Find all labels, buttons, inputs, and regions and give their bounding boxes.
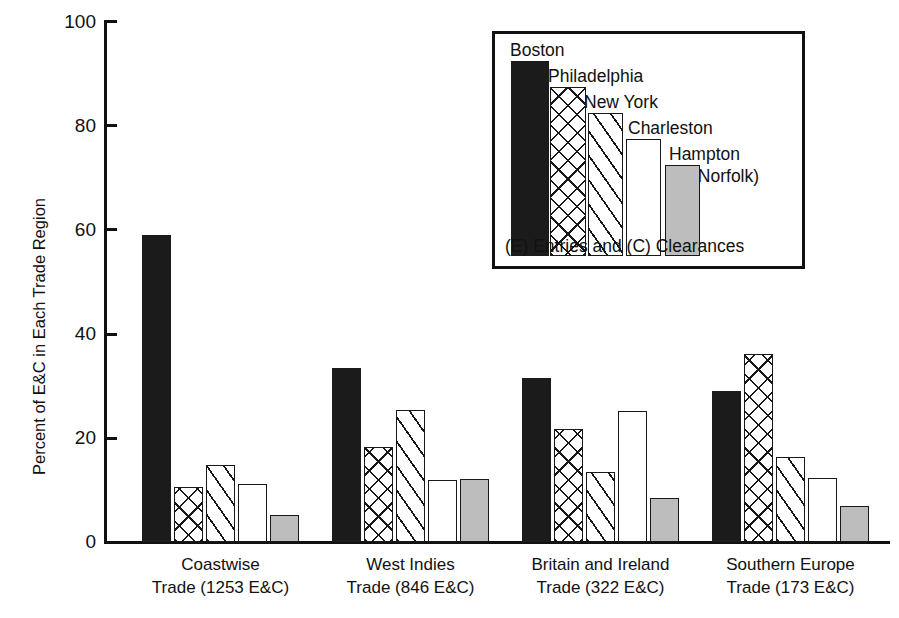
x-axis-label-line: Britain and Ireland xyxy=(491,553,711,576)
bar-boston-4 xyxy=(712,391,741,542)
bar-boston-1 xyxy=(142,235,171,542)
bar-philadelphia-3 xyxy=(554,429,583,542)
bar-charleston-4 xyxy=(808,478,837,542)
bar-boston-2 xyxy=(332,368,361,542)
bar-hampton-norfolk-1 xyxy=(270,515,299,542)
bar-philadelphia-2 xyxy=(364,447,393,542)
bar-charleston-2 xyxy=(428,480,457,542)
bar-group xyxy=(332,20,489,542)
y-tick-label-60: 60 xyxy=(36,219,96,241)
x-axis-label-group-4: Southern EuropeTrade (173 E&C) xyxy=(681,553,899,599)
bar-philadelphia-4 xyxy=(744,354,773,542)
y-tick-label-80: 80 xyxy=(36,115,96,137)
legend-label-new-york: New York xyxy=(584,92,658,112)
x-axis-label-line: Southern Europe xyxy=(681,553,899,576)
legend-label-philadelphia: Philadelphia xyxy=(548,66,643,86)
bar-charleston-3 xyxy=(618,411,647,542)
bar-chart: Percent of E&C in Each Trade Region 100 … xyxy=(0,0,899,618)
legend-label-charleston: Charleston xyxy=(628,118,713,138)
x-axis-label-line: Trade (173 E&C) xyxy=(681,576,899,599)
x-axis-label-line: Trade (322 E&C) xyxy=(491,576,711,599)
bar-new-york-1 xyxy=(206,465,235,542)
legend-label-hampton: Hampton xyxy=(669,144,740,164)
bar-boston-3 xyxy=(522,378,551,542)
bar-new-york-3 xyxy=(586,472,615,542)
y-tick-label-100: 100 xyxy=(36,11,96,33)
x-axis-label-group-2: West IndiesTrade (846 E&C) xyxy=(301,553,521,599)
bar-philadelphia-1 xyxy=(174,487,203,542)
bar-group xyxy=(142,20,299,542)
bar-hampton-norfolk-4 xyxy=(840,506,869,542)
y-tick-label-20: 20 xyxy=(36,427,96,449)
legend-swatch-new-york xyxy=(588,113,623,256)
bar-new-york-4 xyxy=(776,457,805,542)
x-axis-label-line: Trade (1253 E&C) xyxy=(111,576,331,599)
legend-swatch-boston xyxy=(511,61,549,256)
bar-hampton-norfolk-2 xyxy=(460,479,489,542)
bar-new-york-2 xyxy=(396,410,425,542)
x-axis-label-line: Trade (846 E&C) xyxy=(301,576,521,599)
legend-note: (E) Entries and (C) Clearances xyxy=(505,236,744,257)
bar-charleston-1 xyxy=(238,484,267,542)
legend-swatch-philadelphia xyxy=(550,87,586,256)
x-axis-label-group-1: CoastwiseTrade (1253 E&C) xyxy=(111,553,331,599)
x-axis-label-line: West Indies xyxy=(301,553,521,576)
x-axis-label-group-3: Britain and IrelandTrade (322 E&C) xyxy=(491,553,711,599)
legend-label-boston: Boston xyxy=(510,40,564,60)
bar-hampton-norfolk-3 xyxy=(650,498,679,542)
y-tick-label-0: 0 xyxy=(36,531,96,553)
x-axis-label-line: Coastwise xyxy=(111,553,331,576)
legend-label-norfolk: (Norfolk) xyxy=(692,166,759,186)
legend: Boston Philadelphia New York Charleston … xyxy=(492,31,805,269)
y-tick-label-40: 40 xyxy=(36,323,96,345)
